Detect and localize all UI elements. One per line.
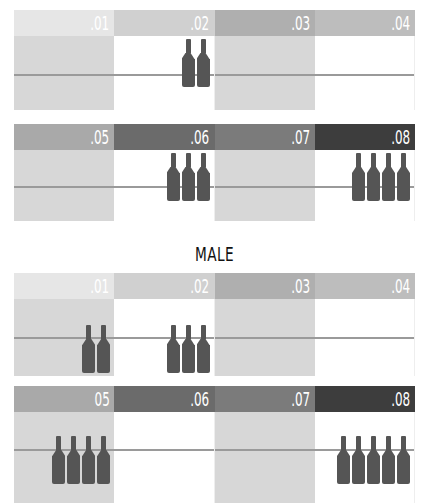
bottle-icon (397, 436, 410, 484)
panel-body (14, 36, 114, 110)
panel-cell: .08 (315, 124, 415, 221)
panel-header: .03 (215, 273, 315, 299)
bottle-icon (167, 153, 180, 201)
panel-body (315, 412, 415, 503)
panel-header: 05 (14, 386, 114, 412)
panel-label: .07 (291, 386, 310, 412)
baseline-rule (215, 337, 315, 339)
bottle-group (167, 153, 210, 201)
panel-body (114, 36, 214, 110)
panel-body (114, 299, 214, 376)
bottle-group (82, 325, 110, 373)
panel-body (215, 36, 315, 110)
bottle-group (352, 153, 410, 201)
panel-cell: .02 (114, 10, 214, 110)
panel-label: .06 (190, 124, 209, 150)
panel-cell: .04 (315, 273, 415, 376)
panel-header: .05 (14, 124, 114, 150)
bottle-group (167, 325, 210, 373)
panel-cell: .05 (14, 124, 114, 221)
bottle-icon (52, 436, 65, 484)
panel-body (14, 299, 114, 376)
bottle-group (337, 436, 410, 484)
panel-label: .01 (90, 10, 109, 36)
panel-body (315, 299, 415, 376)
panel-header: .02 (114, 273, 214, 299)
bottle-icon (382, 153, 395, 201)
panel-label: .08 (391, 386, 410, 412)
female-section-title-clipped (0, 0, 429, 2)
bottle-group (52, 436, 110, 484)
panel-label: .04 (391, 273, 410, 299)
panel-body (14, 412, 114, 503)
panel-header: .04 (315, 273, 415, 299)
panel-header: .07 (215, 124, 315, 150)
baseline-rule (315, 337, 414, 339)
bottle-icon (382, 436, 395, 484)
bottle-icon (197, 153, 210, 201)
panel-body (14, 150, 114, 221)
bottle-icon (82, 436, 95, 484)
panel-cell: .04 (315, 10, 415, 110)
panel-body (215, 299, 315, 376)
baseline-rule (215, 186, 315, 188)
baseline-rule (215, 74, 315, 76)
panel-label: .07 (291, 124, 310, 150)
panel-body (215, 412, 315, 503)
bottle-icon (367, 436, 380, 484)
bottle-icon (182, 39, 195, 87)
panel-header: .04 (315, 10, 415, 36)
panel-cell: .02 (114, 273, 214, 376)
bottle-icon (337, 436, 350, 484)
bottle-icon (97, 436, 110, 484)
panel-body (315, 36, 415, 110)
panel-header: .07 (215, 386, 315, 412)
panel-label: 05 (94, 386, 109, 412)
panel-cell: .06 (114, 386, 214, 503)
panel-header: .03 (215, 10, 315, 36)
panel-cell: .03 (215, 10, 315, 110)
panel-label: .03 (291, 10, 310, 36)
panel-body (114, 150, 214, 221)
bottle-icon (167, 325, 180, 373)
bottle-icon (182, 325, 195, 373)
panel-header: .01 (14, 10, 114, 36)
male-row-2: 05.06.07.08 (14, 386, 415, 503)
bottle-icon (352, 153, 365, 201)
panel-header: .08 (315, 386, 415, 412)
baseline-rule (215, 449, 315, 451)
panel-label: .02 (190, 273, 209, 299)
panel-header: .01 (14, 273, 114, 299)
panel-cell: .07 (215, 124, 315, 221)
panel-cell: .07 (215, 386, 315, 503)
panel-label: .01 (90, 273, 109, 299)
bottle-icon (67, 436, 80, 484)
female-row-2: .05.06.07.08 (14, 124, 415, 221)
bottle-icon (82, 325, 95, 373)
male-section-title: MALE (60, 243, 369, 265)
baseline-rule (114, 449, 213, 451)
panel-label: .05 (90, 124, 109, 150)
bottle-icon (352, 436, 365, 484)
panel-header: .06 (114, 386, 214, 412)
panel-body (215, 150, 315, 221)
panel-label: .02 (190, 10, 209, 36)
bottle-icon (397, 153, 410, 201)
panel-cell: .03 (215, 273, 315, 376)
bottle-icon (367, 153, 380, 201)
panel-label: .03 (291, 273, 310, 299)
bottle-icon (197, 325, 210, 373)
panel-label: .04 (391, 10, 410, 36)
baseline-rule (315, 74, 414, 76)
bottle-icon (197, 39, 210, 87)
male-row-1: .01.02.03.04 (14, 273, 415, 376)
bottle-icon (97, 325, 110, 373)
panel-body (315, 150, 415, 221)
baseline-rule (14, 74, 114, 76)
panel-cell: .08 (315, 386, 415, 503)
baseline-rule (14, 186, 114, 188)
panel-label: .08 (391, 124, 410, 150)
panel-header: .08 (315, 124, 415, 150)
panel-cell: .01 (14, 10, 114, 110)
panel-body (114, 412, 214, 503)
